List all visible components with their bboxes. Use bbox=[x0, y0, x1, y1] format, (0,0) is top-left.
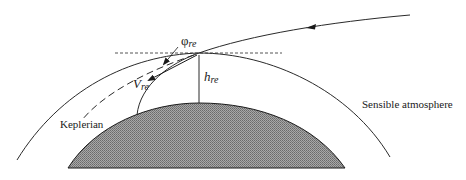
sensible-atmosphere-label: Sensible atmosphere bbox=[362, 98, 453, 110]
velocity-label: Vre bbox=[133, 76, 149, 92]
reentry-diagram: φre hre Vre Keplerian Sensible atmospher… bbox=[0, 0, 466, 180]
planet-surface bbox=[68, 103, 345, 168]
flight-path-angle-pointer bbox=[164, 47, 178, 64]
incoming-trajectory bbox=[199, 15, 410, 53]
keplerian-label: Keplerian bbox=[60, 118, 104, 130]
trajectory-direction-arrow-icon bbox=[306, 24, 316, 30]
altitude-label: hre bbox=[204, 69, 219, 85]
flight-path-angle-label: φre bbox=[181, 33, 197, 49]
